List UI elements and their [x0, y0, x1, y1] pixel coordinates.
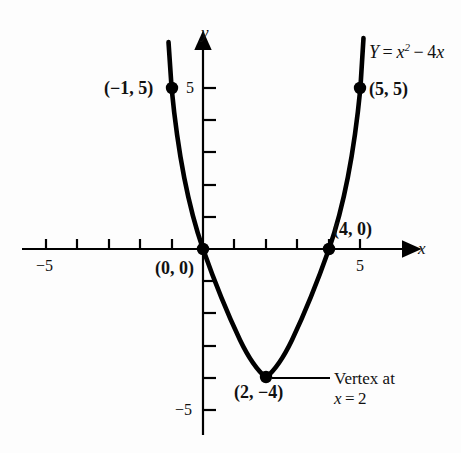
y-tick-label-5: 5: [186, 80, 194, 96]
vertex-annotation-line1: Vertex at: [334, 369, 395, 389]
point-5-5: [354, 82, 366, 94]
parabola-curve: [169, 38, 364, 378]
x-axis: [22, 239, 404, 249]
point-label-0-0: (0, 0): [155, 259, 194, 277]
equation-label: Y = x2 − 4x: [369, 42, 444, 61]
y-axis: [203, 48, 216, 435]
point-label-4-0: (4, 0): [333, 220, 372, 238]
point-4-0: [323, 243, 335, 255]
point-label-5-5: (5, 5): [369, 80, 408, 98]
x-tick-label-5: 5: [356, 258, 364, 274]
vertex-annotation-line2: x = 2: [334, 389, 366, 409]
point-0-0: [197, 243, 209, 255]
y-axis-label: y: [201, 24, 209, 41]
y-tick-label-neg5: −5: [175, 402, 192, 418]
point-neg1-5: [166, 82, 178, 94]
x-axis-label: x: [418, 240, 426, 257]
figure-canvas: y x −5 5 5 −5 (−1, 5) (5, 5) (0, 0) (4, …: [0, 0, 461, 453]
point-label-neg1-5: (−1, 5): [104, 79, 153, 97]
x-tick-label-neg5: −5: [36, 258, 53, 274]
point-label-2-neg4: (2, −4): [234, 383, 283, 401]
